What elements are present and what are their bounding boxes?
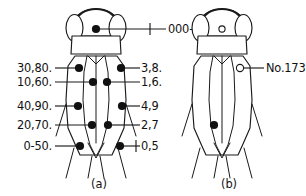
marker-dot-30-80	[75, 64, 83, 72]
marker-dot-0-50	[76, 142, 84, 150]
label-right-0-5: 0,5	[141, 139, 159, 153]
marker-dot-1-6	[103, 78, 111, 86]
left-leg-a	[56, 104, 66, 136]
label-left-0-50: 0-50.	[24, 139, 52, 153]
label-specimen-number: No.173	[266, 61, 305, 75]
pronotum-a	[71, 36, 121, 54]
left-hindleg-a	[66, 148, 74, 178]
label-left-30-80: 30,80.	[17, 61, 52, 75]
marker-dot-20-70	[88, 121, 96, 129]
right-hindleg-a	[118, 148, 126, 178]
caption-panel-a: (a)	[91, 177, 107, 191]
panel-b-annotations: No.173	[243, 61, 305, 75]
marker-dot-3-8	[117, 64, 125, 72]
label-right-3-8: 3,8.	[141, 61, 162, 75]
label-left-40-90: 40,90.	[17, 99, 52, 113]
marker-dot-000-900	[92, 25, 100, 33]
marker-dot-0-5	[116, 142, 124, 150]
marker-dot-10-60	[89, 78, 97, 86]
right-cercus-a	[100, 156, 104, 178]
panel-a-body-outline	[56, 9, 136, 178]
anatomical-marking-diagram: 000-900 30,80. 10,60. 40,90. 20,70. 0-50…	[0, 0, 306, 196]
label-right-4-9: 4,9	[141, 99, 159, 113]
marker-dot-4-9	[118, 102, 126, 110]
left-cercus-b	[214, 156, 218, 178]
marker-circle-head-b	[219, 26, 225, 32]
marker-dot-2-7	[104, 121, 112, 129]
right-hindleg-b	[244, 148, 252, 178]
right-cercus-b	[226, 156, 230, 178]
figure-container: 000-900 30,80. 10,60. 40,90. 20,70. 0-50…	[0, 0, 306, 196]
marker-circle-thorax-b	[236, 64, 243, 71]
right-leg-a	[126, 104, 136, 136]
pronotum-b	[197, 36, 247, 54]
marker-dot-40-90	[74, 102, 82, 110]
marker-dot-abdomen-b	[210, 121, 218, 129]
caption-panel-b: (b)	[221, 177, 237, 191]
left-hindleg-b	[192, 148, 200, 178]
label-right-1-6: 1,6.	[141, 75, 162, 89]
left-cercus-a	[88, 156, 92, 178]
panel-b-body-outline	[182, 9, 262, 178]
right-leg-b	[252, 104, 262, 136]
label-right-2-7: 2,7	[141, 118, 159, 132]
label-left-10-60: 10,60.	[17, 75, 52, 89]
label-left-20-70: 20,70.	[17, 118, 52, 132]
left-leg-b	[182, 104, 192, 136]
